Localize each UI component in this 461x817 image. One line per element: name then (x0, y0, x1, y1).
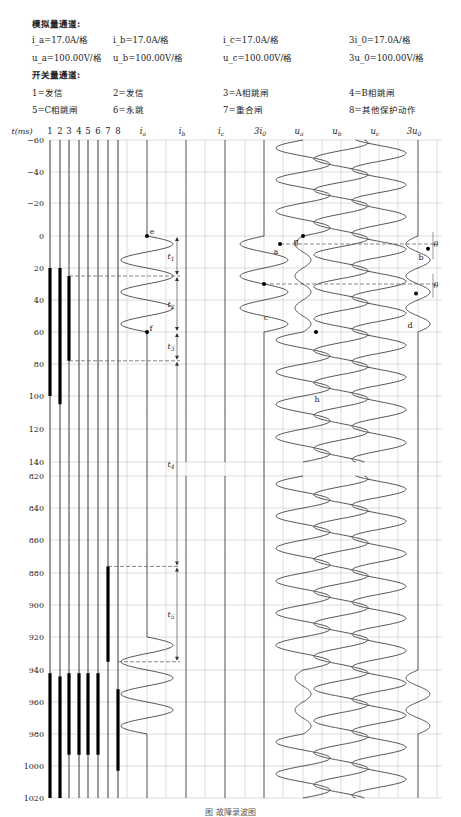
tick-label: −40 (27, 168, 44, 177)
interval-label: t1 (167, 252, 174, 262)
arrow-head-icon (175, 657, 179, 661)
tick-label: 840 (29, 504, 44, 513)
marker-label: g (293, 237, 298, 246)
tick-label: 980 (29, 730, 44, 739)
tick-label: 960 (29, 698, 44, 707)
tick-label: 1000 (24, 762, 44, 771)
marker-point (262, 282, 266, 286)
digital-channel-label: 2 (57, 126, 62, 136)
marker-point (145, 234, 149, 238)
digital-channel-label: 6 (95, 126, 100, 136)
digital-channel-label: 1 (47, 126, 52, 136)
theta-label: θ (434, 281, 439, 290)
interval-label: t2 (167, 300, 174, 310)
analog-channel-label: 3u0 (407, 126, 422, 137)
marker-point (301, 234, 305, 238)
analog-channel-label: ia (140, 126, 147, 137)
marker-label: a (274, 247, 279, 256)
marker-label: b (418, 253, 423, 262)
tick-label: 40 (34, 296, 44, 305)
analog-channel-label: ic (218, 126, 225, 137)
arrow-head-icon (175, 561, 179, 565)
tick-label: 820 (29, 472, 44, 481)
tick-label: −20 (27, 199, 44, 208)
digital-channel-label: 5 (85, 126, 90, 136)
marker-label: c (264, 313, 269, 322)
digital-channel-label: 8 (115, 126, 120, 136)
theta-label: θ (434, 240, 439, 249)
tick-label: 1020 (24, 794, 44, 803)
tick-label: 940 (29, 666, 44, 675)
tick-label: 140 (29, 458, 44, 467)
interval-label: t5 (167, 610, 174, 620)
marker-point (145, 330, 149, 334)
tick-label: 860 (29, 536, 44, 545)
marker-label: e (150, 227, 155, 236)
tick-label: 20 (34, 264, 44, 273)
axis-label: t(ms) (11, 127, 32, 136)
interval-label: t3 (167, 342, 174, 352)
marker-point (414, 292, 418, 296)
tick-label: −60 (27, 136, 44, 145)
tick-label: 0 (39, 232, 44, 241)
analog-channel-label: uc (371, 126, 380, 137)
digital-channel-label: 7 (105, 126, 110, 136)
figure-caption: 图 故障录波图 (0, 806, 461, 817)
arrow-head-icon (175, 356, 179, 360)
tick-label: 80 (34, 360, 44, 369)
marker-label: d (407, 321, 412, 330)
analog-channel-label: 3i0 (254, 126, 266, 137)
marker-point (278, 242, 282, 246)
marker-label: h (314, 395, 319, 404)
digital-channel-label: 3 (66, 126, 71, 136)
arrow-head-icon (175, 277, 179, 281)
analog-channel-label: ua (294, 126, 303, 137)
tick-label: 120 (29, 425, 44, 434)
analog-channel-label: ib (179, 126, 186, 137)
tick-label: 900 (29, 601, 44, 610)
arrow-head-icon (175, 271, 179, 275)
arrow-head-icon (175, 327, 179, 331)
tick-label: 880 (29, 569, 44, 578)
marker-point (426, 247, 430, 251)
analog-channel-label: ub (332, 126, 341, 137)
marker-label: f (150, 324, 154, 333)
digital-channel-label: 4 (76, 126, 81, 136)
arrow-head-icon (175, 237, 179, 241)
marker-point (314, 330, 318, 334)
tick-label: 920 (29, 633, 44, 642)
interval-label: t4 (167, 460, 174, 470)
tick-label: 100 (29, 392, 44, 401)
tick-label: 60 (34, 328, 44, 337)
arrow-head-icon (175, 333, 179, 337)
arrow-head-icon (175, 567, 179, 571)
